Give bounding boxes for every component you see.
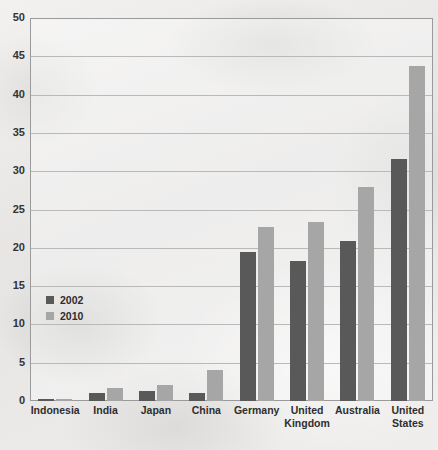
- x-axis-label-japan: Japan: [131, 404, 181, 417]
- bar-2010-united-kingdom: [308, 222, 324, 401]
- bar-2002-japan: [139, 391, 155, 401]
- legend-swatch-icon: [46, 296, 54, 304]
- y-axis-tick-label: 30: [0, 165, 25, 176]
- bar-group: [30, 18, 80, 401]
- bar-2010-india: [107, 388, 123, 401]
- bar-group: [232, 18, 282, 401]
- y-axis-tick-label: 15: [0, 280, 25, 291]
- x-axis-labels: IndonesiaIndiaJapanChinaGermanyUnited Ki…: [30, 404, 433, 450]
- bar-2010-australia: [358, 187, 374, 401]
- y-axis-tick-label: 25: [0, 204, 25, 215]
- legend-swatch-icon: [46, 312, 54, 320]
- bar-2002-united-kingdom: [290, 261, 306, 401]
- bar-2010-united-states: [409, 66, 425, 402]
- y-axis-tick-label: 0: [0, 395, 25, 406]
- x-axis-label-australia: Australia: [332, 404, 382, 417]
- bar-2002-united-states: [391, 159, 407, 401]
- chart-legend: 20022010: [46, 292, 83, 324]
- bar-group: [181, 18, 231, 401]
- bar-group: [131, 18, 181, 401]
- x-axis-label-china: China: [181, 404, 231, 417]
- bar-group: [383, 18, 433, 401]
- bar-chart: 05101520253035404550 IndonesiaIndiaJapan…: [0, 0, 438, 450]
- bar-group: [80, 18, 130, 401]
- legend-label: 2010: [60, 310, 83, 322]
- bar-2002-australia: [340, 241, 356, 401]
- y-axis-tick-label: 5: [0, 357, 25, 368]
- bars-layer: [30, 18, 433, 401]
- x-axis-label-indonesia: Indonesia: [30, 404, 80, 417]
- legend-item-2002: 2002: [46, 292, 83, 308]
- bar-2002-china: [189, 393, 205, 401]
- bar-2002-india: [89, 393, 105, 401]
- legend-item-2010: 2010: [46, 308, 83, 324]
- bar-group: [332, 18, 382, 401]
- bar-group: [282, 18, 332, 401]
- x-axis-label-india: India: [80, 404, 130, 417]
- x-axis-label-united-states: United States: [383, 404, 433, 429]
- legend-label: 2002: [60, 294, 83, 306]
- bar-2002-indonesia: [38, 399, 54, 401]
- y-axis-tick-label: 35: [0, 127, 25, 138]
- bar-2010-china: [207, 370, 223, 401]
- bar-2010-japan: [157, 385, 173, 401]
- bar-2010-germany: [258, 227, 274, 401]
- x-axis-label-united-kingdom: United Kingdom: [282, 404, 332, 429]
- y-axis-tick-label: 50: [0, 12, 25, 23]
- y-axis-tick-label: 45: [0, 50, 25, 61]
- y-axis-tick-label: 10: [0, 318, 25, 329]
- y-axis-tick-label: 20: [0, 242, 25, 253]
- bar-2010-indonesia: [56, 399, 72, 401]
- y-axis-tick-label: 40: [0, 89, 25, 100]
- x-axis-label-germany: Germany: [232, 404, 282, 417]
- bar-2002-germany: [240, 252, 256, 401]
